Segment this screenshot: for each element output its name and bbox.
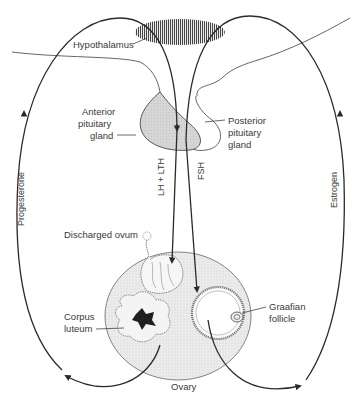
graafian-follicle-label: Graafian follicle	[242, 301, 305, 324]
svg-text:Corpus: Corpus	[64, 311, 95, 322]
svg-text:gland: gland	[228, 139, 251, 150]
ovary-label: Ovary	[171, 381, 197, 392]
anterior-pituitary-gland	[140, 92, 200, 150]
hypothalamus-leader	[133, 38, 147, 44]
svg-text:gland: gland	[90, 130, 113, 141]
hypothalamus-label: Hypothalamus	[73, 39, 134, 50]
graafian-follicle	[192, 287, 244, 339]
discharged-ovum	[141, 232, 183, 293]
discharged-ovum-label: Discharged ovum	[64, 229, 138, 240]
svg-text:follicle: follicle	[269, 313, 295, 324]
hypothalamus-region	[135, 19, 225, 45]
svg-text:pituitary: pituitary	[78, 118, 112, 129]
estrogen-label: Estrogen	[329, 172, 339, 208]
hormone-cycle-diagram: Hypothalamus Anterior pituitary gland Po…	[0, 0, 362, 405]
posterior-pituitary-label: Posterior pituitary gland	[205, 115, 266, 150]
svg-text:Posterior: Posterior	[228, 115, 266, 126]
svg-text:pituitary: pituitary	[228, 127, 262, 138]
progesterone-label: Progesterone	[16, 172, 26, 226]
svg-text:luteum: luteum	[64, 323, 93, 334]
svg-text:Graafian: Graafian	[269, 301, 305, 312]
fsh-label: FSH	[196, 162, 206, 180]
svg-text:Anterior: Anterior	[82, 106, 115, 117]
anterior-pituitary-label: Anterior pituitary gland	[78, 106, 136, 141]
lh-lth-label: LH + LTH	[156, 158, 166, 196]
